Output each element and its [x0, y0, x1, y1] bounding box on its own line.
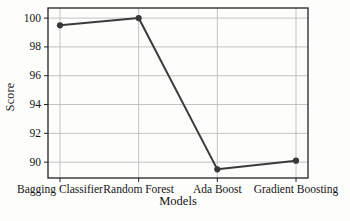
y-tick-label: 94	[30, 98, 42, 110]
series-line	[60, 18, 296, 169]
y-axis-label: Score	[3, 83, 18, 111]
x-tick-label: Ada Boost	[193, 183, 243, 195]
y-tick-label: 100	[24, 12, 42, 24]
data-point	[57, 22, 63, 28]
line-chart: 9092949698100Bagging ClassifierRandom Fo…	[0, 0, 350, 221]
data-point	[136, 15, 142, 21]
data-point	[214, 166, 220, 172]
data-point	[293, 158, 299, 164]
y-tick-label: 90	[30, 156, 42, 168]
figure: 9092949698100Bagging ClassifierRandom Fo…	[0, 0, 350, 221]
x-tick-label: Gradient Boosting	[254, 183, 339, 196]
y-tick-label: 96	[30, 69, 42, 81]
y-tick-label: 98	[30, 40, 42, 52]
y-tick-label: 92	[30, 127, 42, 139]
x-axis-label: Models	[159, 194, 197, 209]
x-tick-label: Bagging Classifier	[17, 183, 103, 196]
